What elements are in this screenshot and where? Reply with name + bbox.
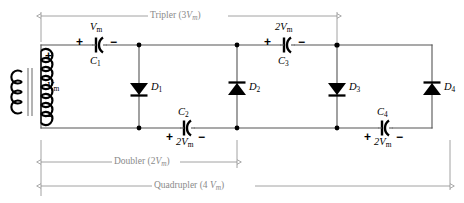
capacitor-c2-plus: + — [166, 131, 173, 143]
circuit-schematic-canvas — [0, 0, 464, 203]
c4-plate-curved — [385, 121, 389, 136]
transformer-minus-sign: − — [45, 110, 52, 122]
capacitor-c4-symbol — [378, 121, 393, 136]
node-d3-top — [334, 42, 339, 47]
capacitor-c3-symbol — [280, 38, 295, 53]
capacitor-c3-value: 2Vm — [275, 22, 292, 33]
node-d3-bottom — [335, 126, 340, 131]
circuit-diagram: + − Vm Vm + − C1 2Vm + − C3 C2 + − 2Vm C… — [0, 0, 464, 203]
capacitor-c4-plus: + — [364, 131, 371, 143]
diode-d3-symbol — [328, 83, 346, 96]
c1-plate-curved — [99, 38, 103, 53]
d1-triangle — [130, 83, 148, 95]
capacitor-c3-minus: − — [298, 36, 305, 48]
transformer-primary-coil — [11, 71, 22, 114]
diode-d1-label: D1 — [151, 82, 162, 93]
diode-d2-label: D2 — [249, 82, 260, 93]
span-label-doubler: Doubler (2Vm) — [114, 157, 170, 167]
c3-plate-curved — [287, 38, 291, 53]
node-d2-top — [235, 43, 240, 48]
transformer-plus-sign: + — [45, 50, 52, 62]
transformer-secondary-voltage: Vm — [47, 81, 59, 92]
capacitor-c1-value: Vm — [90, 22, 102, 33]
span-annotations — [41, 12, 450, 196]
capacitor-c4-minus: − — [396, 131, 403, 143]
capacitor-c2-minus: − — [198, 131, 205, 143]
diode-d2-symbol — [228, 83, 246, 96]
capacitor-c1-minus: − — [110, 36, 117, 48]
capacitor-c4-label: C4 — [377, 107, 388, 118]
c2-plate-curved — [187, 121, 191, 136]
capacitor-c4-value: 2Vm — [374, 137, 391, 148]
capacitor-c1-label: C1 — [90, 56, 101, 67]
capacitor-c3-plus: + — [264, 36, 271, 48]
capacitor-c2-value: 2Vm — [176, 137, 193, 148]
capacitor-c1-plus: + — [76, 36, 83, 48]
diode-d4-label: D4 — [444, 82, 455, 93]
span-label-tripler: Tripler (3Vm) — [150, 11, 201, 21]
capacitor-c2-symbol — [180, 121, 195, 136]
node-d2-bottom — [235, 126, 240, 131]
d4-triangle — [423, 83, 441, 95]
transformer-core — [28, 68, 32, 116]
d3-triangle — [328, 83, 346, 95]
capacitor-c1-symbol — [92, 38, 107, 53]
span-label-quadrupler: Quadrupler (4 Vm) — [154, 181, 224, 191]
diode-d4-symbol — [423, 83, 441, 96]
capacitor-c3-label: C3 — [278, 56, 289, 67]
d2-triangle — [228, 83, 246, 95]
node-d1-top — [137, 43, 142, 48]
node-d1-bottom — [137, 126, 142, 131]
diode-d3-label: D3 — [349, 82, 360, 93]
capacitor-c2-label: C2 — [178, 107, 189, 118]
diode-d1-symbol — [130, 83, 148, 96]
